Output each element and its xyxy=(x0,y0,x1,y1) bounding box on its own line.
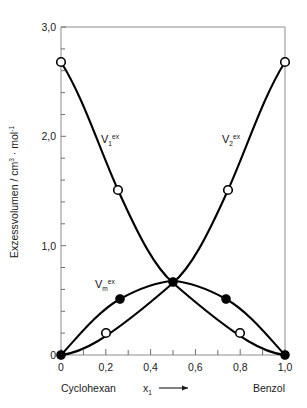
curve-label-v2-sub: 2 xyxy=(229,140,233,147)
x-tick-label-0: 0 xyxy=(58,361,64,373)
x-tick-label-02: 0,2 xyxy=(98,361,113,373)
x-left-species-label: Cyclohexan xyxy=(61,382,116,394)
x-axis-ticks xyxy=(61,349,285,355)
x-axis-endpoint-labels: Cyclohexan Benzol x1 xyxy=(61,382,285,396)
data-point-v2-x075 xyxy=(224,186,233,195)
y-tick-label-2: 2,0 xyxy=(41,130,56,142)
curve-label-v2: V2ex xyxy=(222,133,241,147)
chart-svg: 3,0 2,0 1,0 0 0 0,2 0,4 0,6 0,8 1,0 Exze… xyxy=(0,0,307,408)
y-axis-title-mid: · mol xyxy=(8,132,20,158)
curve-label-vm: Vmex xyxy=(95,278,116,292)
data-point-vm-x10 xyxy=(281,351,289,359)
data-point-vm-x025 xyxy=(116,295,124,303)
excess-volume-chart: 3,0 2,0 1,0 0 0 0,2 0,4 0,6 0,8 1,0 Exze… xyxy=(0,0,307,408)
data-point-v2-x10 xyxy=(281,58,290,67)
y-axis-ticks xyxy=(61,27,66,355)
svg-text:Exzessvolumen / cm3 · mol-1: Exzessvolumen / cm3 · mol-1 xyxy=(8,126,20,258)
markers-v1-ex xyxy=(57,58,245,338)
data-point-v2-x025 xyxy=(102,329,111,338)
x-right-species-label: Benzol xyxy=(253,382,285,394)
svg-text:x1: x1 xyxy=(143,382,152,396)
markers-v2-ex xyxy=(102,58,290,338)
data-point-v1-x025 xyxy=(114,186,123,195)
x-axis-title-sub: 1 xyxy=(148,389,152,396)
y-tick-label-0: 0 xyxy=(50,349,56,361)
x-axis-direction-arrow-icon xyxy=(159,386,188,391)
y-tick-label-1: 1,0 xyxy=(41,240,56,252)
curve-label-v1-sup: ex xyxy=(112,133,120,140)
data-point-v1-x075 xyxy=(236,329,245,338)
data-point-vm-x0 xyxy=(57,351,65,359)
curve-v1-ex xyxy=(61,62,285,355)
plot-frame xyxy=(61,27,285,355)
x-tick-label-04: 0,4 xyxy=(143,361,158,373)
data-point-vm-x05 xyxy=(169,278,177,286)
x-tick-label-10: 1,0 xyxy=(278,361,293,373)
y-tick-label-3: 3,0 xyxy=(41,21,56,33)
x-tick-labels: 0 0,2 0,4 0,6 0,8 1,0 xyxy=(58,361,292,373)
curve-v2-ex xyxy=(61,62,285,355)
y-tick-labels: 3,0 2,0 1,0 0 xyxy=(41,21,56,361)
svg-text:V1ex: V1ex xyxy=(101,133,120,147)
svg-text:Vmex: Vmex xyxy=(95,278,116,292)
y-axis-title-main: Exzessvolumen / cm xyxy=(8,161,20,258)
svg-text:V2ex: V2ex xyxy=(222,133,241,147)
curve-label-v2-sup: ex xyxy=(233,133,241,140)
markers-vm-ex xyxy=(57,278,289,359)
curve-label-v1-sub: 1 xyxy=(108,140,112,147)
curve-label-v1: V1ex xyxy=(101,133,120,147)
x-tick-label-06: 0,6 xyxy=(188,361,203,373)
x-tick-label-08: 0,8 xyxy=(233,361,248,373)
y-axis-title: Exzessvolumen / cm3 · mol-1 xyxy=(8,126,20,258)
curve-label-vm-sub: m xyxy=(102,285,108,292)
y-axis-title-sup-minus1: -1 xyxy=(8,126,15,132)
data-point-vm-x075 xyxy=(222,295,230,303)
data-point-v1-x0 xyxy=(57,58,66,67)
curve-label-vm-sup: ex xyxy=(108,278,116,285)
